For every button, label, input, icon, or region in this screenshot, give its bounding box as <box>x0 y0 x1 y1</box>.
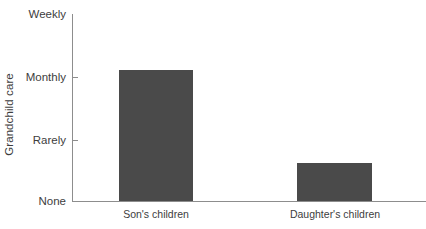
x-axis-line <box>72 201 426 202</box>
y-axis-line <box>72 14 73 202</box>
y-tick-label-weekly: Weekly <box>0 8 66 20</box>
bar-sons-children <box>119 70 193 201</box>
bar-chart: Grandchild care Weekly Monthly Rarely No… <box>0 0 426 229</box>
y-tick-mark-rarely <box>73 140 78 141</box>
x-category-label-sons-children: Son's children <box>123 207 189 221</box>
y-tick-label-none: None <box>0 195 66 207</box>
y-tick-label-rarely: Rarely <box>0 134 66 146</box>
bar-daughters-children <box>297 163 372 201</box>
y-tick-mark-monthly <box>73 77 78 78</box>
x-category-label-daughters-children: Daughter's children <box>290 207 380 221</box>
y-tick-label-monthly: Monthly <box>0 71 66 83</box>
